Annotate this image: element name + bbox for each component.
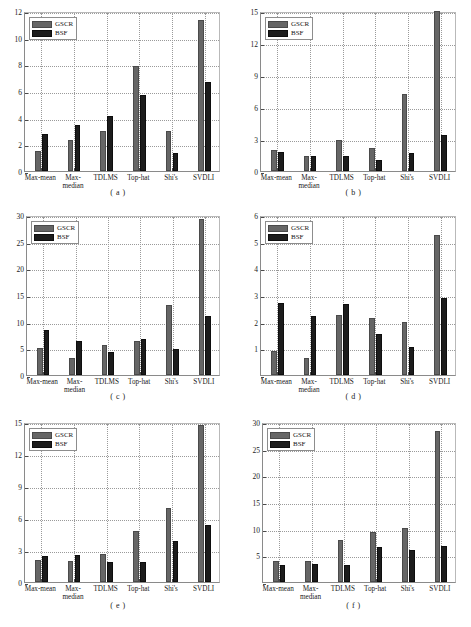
x-tick-label-b-4: Shi's (400, 174, 414, 182)
x-tick-label-c-5: SVDLI (193, 378, 214, 386)
legend-label-bsf: BSF (293, 441, 305, 448)
legend-entry-bsf[interactable]: BSF (32, 29, 73, 37)
y-tick-label: 6 (18, 89, 22, 97)
bar-e-bsf-0 (42, 556, 48, 582)
bar-f-bsf-3 (377, 547, 383, 582)
x-tick-label-b-5: SVDLI (429, 174, 450, 182)
x-tick-label-e-3: Top-hat (127, 585, 149, 593)
y-tick-label: 12 (15, 9, 23, 17)
panel-caption-c: ( c ) (0, 392, 236, 401)
y-tick-label: 5 (254, 240, 258, 248)
bar-a-bsf-0 (42, 134, 48, 171)
bar-e-bsf-2 (107, 562, 113, 582)
y-tick-label: 5 (20, 347, 24, 355)
bsf-swatch-icon (34, 234, 54, 241)
bar-a-gscr-2 (100, 131, 106, 171)
y-tick-label: 0 (18, 580, 22, 588)
bar-b-gscr-2 (336, 140, 342, 171)
y-tick-label: 0 (20, 373, 24, 381)
bar-e-gscr-0 (35, 560, 41, 582)
legend-label-bsf: BSF (291, 30, 303, 37)
bar-c-bsf-0 (44, 330, 50, 375)
bar-b-gscr-0 (271, 150, 277, 171)
x-tick-label-d-5: SVDLI (429, 378, 450, 386)
axes-e: 03691215GSCRBSF (24, 423, 220, 583)
legend-entry-gscr[interactable]: GSCR (32, 20, 73, 28)
legend-label-bsf: BSF (57, 234, 69, 241)
panel-caption-a: ( a ) (0, 188, 236, 197)
x-tick-label-line: median (290, 593, 332, 601)
bar-f-gscr-5 (435, 431, 441, 582)
bar-a-bsf-1 (75, 125, 81, 171)
bar-d-bsf-4 (409, 347, 415, 375)
legend-entry-bsf[interactable]: BSF (268, 233, 309, 241)
x-tick-label-line: Max- (52, 174, 94, 182)
bar-a-gscr-1 (68, 140, 74, 171)
legend-label-bsf: BSF (55, 30, 67, 37)
legend-label-gscr: GSCR (55, 21, 73, 28)
bar-b-bsf-2 (343, 156, 349, 171)
bar-d-bsf-2 (343, 304, 349, 375)
bar-e-gscr-3 (133, 531, 139, 582)
y-tick-label: 30 (253, 420, 261, 428)
legend-d[interactable]: GSCRBSF (265, 221, 313, 244)
legend-entry-gscr[interactable]: GSCR (34, 224, 75, 232)
bar-c-gscr-1 (69, 358, 75, 375)
bar-b-bsf-0 (278, 152, 284, 171)
legend-entry-gscr[interactable]: GSCR (268, 20, 309, 28)
chart-panel-e: 03691215GSCRBSFMax-meanMax-medianTDLMSTo… (0, 409, 236, 627)
bar-e-gscr-5 (198, 425, 204, 582)
x-tick-label-e-2: TDLMS (93, 585, 117, 593)
bar-f-bsf-5 (441, 546, 447, 582)
legend-entry-bsf[interactable]: BSF (268, 29, 309, 37)
y-tick-label: 0 (254, 169, 258, 177)
y-tick-label: 15 (253, 500, 261, 508)
legend-entry-gscr[interactable]: GSCR (270, 431, 311, 439)
gscr-swatch-icon (270, 432, 290, 439)
gscr-swatch-icon (268, 21, 288, 28)
legend-label-bsf: BSF (55, 441, 67, 448)
y-tick-label: 10 (253, 527, 261, 535)
bar-d-gscr-2 (336, 315, 342, 375)
legend-entry-bsf[interactable]: BSF (270, 440, 311, 448)
legend-b[interactable]: GSCRBSF (265, 17, 313, 40)
bar-c-bsf-3 (141, 339, 147, 375)
bar-a-bsf-3 (140, 95, 146, 171)
bsf-swatch-icon (268, 234, 288, 241)
x-tick-label-d-4: Shi's (400, 378, 414, 386)
legend-a[interactable]: GSCRBSF (29, 17, 77, 40)
y-tick-label: 0 (18, 169, 22, 177)
y-tick-label: 3 (254, 137, 258, 145)
legend-entry-gscr[interactable]: GSCR (268, 224, 309, 232)
x-tick-label-f-5: SVDLI (429, 585, 450, 593)
bar-f-bsf-1 (312, 564, 318, 582)
bar-b-bsf-4 (409, 153, 415, 171)
x-tick-label-b-3: Top-hat (363, 174, 385, 182)
legend-entry-bsf[interactable]: BSF (34, 233, 75, 241)
legend-c[interactable]: GSCRBSF (31, 221, 79, 244)
legend-entry-gscr[interactable]: GSCR (32, 431, 73, 439)
x-tick-label-line: Max- (290, 585, 332, 593)
plot-area-d: 123456GSCRBSFMax-meanMax-medianTDLMSTop-… (236, 204, 471, 409)
bar-f-gscr-1 (305, 561, 311, 582)
x-tick-label-line: Max- (288, 174, 330, 182)
legend-e[interactable]: GSCRBSF (29, 428, 77, 451)
bar-d-bsf-5 (441, 298, 447, 375)
y-tick-label: 2 (18, 143, 22, 151)
bar-d-gscr-4 (402, 322, 408, 375)
bar-f-bsf-4 (409, 550, 415, 582)
chart-panel-b: 03691215GSCRBSFMax-meanMax-medianTDLMSTo… (236, 0, 471, 204)
y-tick-label: 20 (253, 474, 261, 482)
legend-entry-bsf[interactable]: BSF (32, 440, 73, 448)
x-tick-label-d-2: TDLMS (329, 378, 353, 386)
bar-d-gscr-3 (369, 318, 375, 375)
y-tick-label: 1 (254, 347, 258, 355)
bar-b-gscr-1 (304, 156, 310, 171)
bar-c-gscr-5 (199, 219, 205, 375)
bar-a-gscr-0 (35, 151, 41, 171)
bar-e-bsf-5 (205, 525, 211, 582)
bar-b-gscr-3 (369, 148, 375, 171)
legend-f[interactable]: GSCRBSF (267, 428, 315, 451)
x-tick-label-f-1: Max-median (290, 585, 332, 601)
bar-e-gscr-4 (166, 508, 172, 582)
